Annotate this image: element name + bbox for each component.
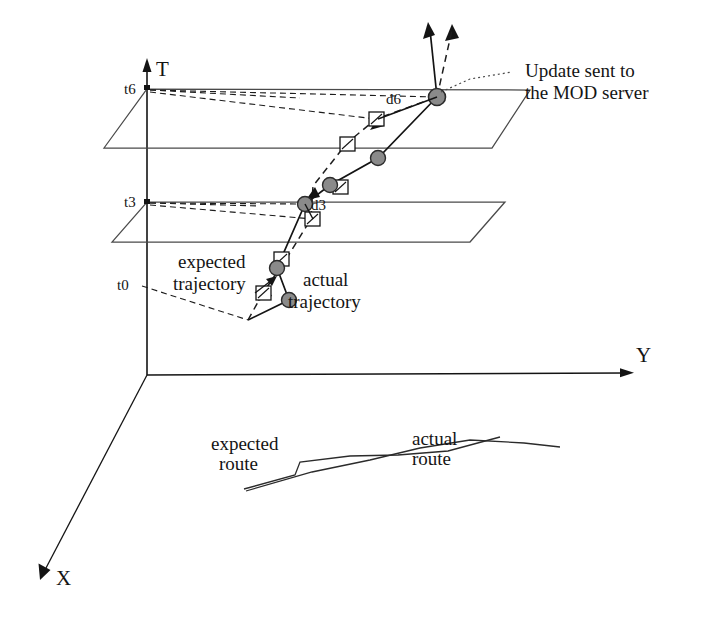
actual-position-markers [270, 89, 446, 308]
legend-actual-line2: route [412, 448, 451, 469]
expected-marker [369, 112, 384, 126]
actual-route-arrow-tip [423, 22, 435, 39]
update-callout: Update sent to the MOD server [441, 60, 649, 103]
actual-marker [371, 151, 386, 166]
guide-t3-to-expected [150, 205, 313, 219]
y-axis-label: Y [636, 343, 651, 367]
time-plane-t6 [104, 89, 530, 148]
legend-expected-line1: expected [211, 433, 279, 454]
actual-trajectory-callout: actual trajectory [288, 269, 361, 312]
update-callout-leader [441, 72, 512, 92]
tick-mark-t6 [144, 85, 150, 90]
legend-expected-route-line [244, 437, 500, 489]
expected-trajectory-leader-arrow [266, 276, 277, 286]
expected-marker [340, 137, 355, 151]
tick-mark-t3 [144, 199, 150, 204]
actual-marker [323, 178, 338, 193]
actual-marker [270, 261, 285, 276]
actual-trajectory-line1: actual [303, 269, 348, 290]
tick-label-t0: t0 [117, 277, 129, 293]
legend-actual-route-line [246, 440, 560, 491]
trajectory-diagram: T Y X t6 t3 t0 [0, 0, 706, 620]
actual-trajectory-line2: trajectory [288, 291, 361, 312]
diagram-canvas: T Y X t6 t3 t0 [0, 0, 706, 620]
time-tick-labels: t6 t3 t0 [117, 81, 150, 293]
tick-label-t3: t3 [124, 194, 136, 210]
time-axis-arrowhead [143, 58, 152, 72]
guide-t6-upper [150, 90, 300, 98]
update-callout-line2: the MOD server [525, 82, 649, 103]
route-legend: expected route actual route [211, 428, 560, 491]
x-axis-line [46, 375, 147, 568]
expected-trajectory-line2: trajectory [173, 273, 246, 294]
time-axis-label: T [156, 57, 169, 81]
legend-actual-line1: actual [412, 428, 457, 449]
expected-route-extension [437, 30, 452, 97]
legend-expected-line2: route [219, 453, 258, 474]
expected-trajectory-callout: expected trajectory [173, 251, 277, 294]
tick-label-t6: t6 [124, 81, 136, 97]
deviation-label-d3: d3 [311, 197, 326, 213]
y-axis-arrowhead [620, 368, 634, 377]
x-axis-arrowhead [39, 564, 51, 581]
update-callout-line1: Update sent to [525, 60, 635, 81]
actual-route-extension [430, 30, 437, 97]
deviation-label-d6: d6 [386, 91, 402, 107]
y-axis-line [147, 373, 624, 375]
expected-trajectory-line1: expected [178, 251, 246, 272]
expected-marker [256, 286, 271, 300]
x-axis-label: X [56, 566, 71, 590]
